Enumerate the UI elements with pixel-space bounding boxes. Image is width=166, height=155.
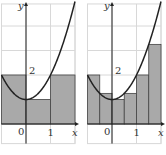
x-arrow-icon <box>75 122 79 126</box>
approx-rectangle <box>26 100 51 125</box>
y-tick-2: 2 <box>115 65 121 76</box>
panel-left: yx012 <box>2 0 80 144</box>
x-tick-1: 1 <box>134 127 140 138</box>
y-axis-label: y <box>103 0 110 11</box>
approx-rectangle <box>149 44 161 124</box>
approx-rectangle <box>137 75 149 124</box>
x-tick-1: 1 <box>48 127 54 138</box>
y-axis-label: y <box>17 0 24 11</box>
approx-rectangle <box>88 75 100 124</box>
panel-right: yx012 <box>88 0 166 144</box>
approx-rectangle <box>124 93 136 124</box>
x-axis-label: x <box>158 127 164 138</box>
x-axis-label: x <box>72 127 78 138</box>
origin-label: 0 <box>18 126 24 137</box>
y-tick-2: 2 <box>29 65 35 76</box>
origin-label: 0 <box>104 126 110 137</box>
riemann-diagram: yx012yx012 <box>0 0 165 155</box>
x-arrow-icon <box>161 122 165 126</box>
approx-rectangle <box>51 75 76 124</box>
approx-rectangle <box>112 100 124 125</box>
